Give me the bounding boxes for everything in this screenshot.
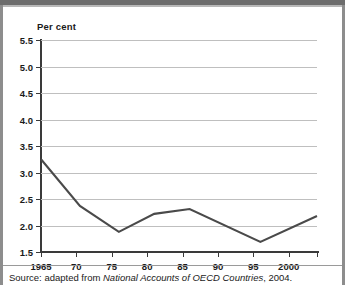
x-axis-tick-label: 1965 xyxy=(30,261,51,272)
y-axis-tick-label: 4.5 xyxy=(20,88,33,99)
y-axis-label: Per cent xyxy=(37,21,76,32)
x-axis-tick-label: 90 xyxy=(213,261,224,272)
x-axis-tick xyxy=(183,252,184,257)
y-axis-tick-label: 5.0 xyxy=(20,61,33,72)
y-axis-tick-label: 2.0 xyxy=(20,220,33,231)
x-axis-tick xyxy=(317,252,318,257)
line-chart: Per cent 5.55.04.54.03.53.02.52.01.5 196… xyxy=(3,7,342,265)
x-axis-tick xyxy=(218,252,219,257)
data-series-svg xyxy=(41,40,317,252)
source-separator xyxy=(3,265,342,266)
x-axis-tick-label: 75 xyxy=(106,261,117,272)
figure-panel: Per cent 5.55.04.54.03.53.02.52.01.5 196… xyxy=(3,7,342,285)
x-axis-tick-label: 95 xyxy=(248,261,259,272)
chart-figure: Per cent 5.55.04.54.03.53.02.52.01.5 196… xyxy=(0,0,345,285)
y-axis-tick-label: 2.5 xyxy=(20,194,33,205)
y-axis-tick-label: 5.5 xyxy=(20,35,33,46)
x-axis-tick xyxy=(41,252,42,257)
y-axis-tick-label: 1.5 xyxy=(20,247,33,258)
x-axis-tick-label: 2000 xyxy=(278,261,299,272)
x-axis-tick-label: 70 xyxy=(71,261,82,272)
x-axis-tick-label: 85 xyxy=(177,261,188,272)
series-line-per-cent xyxy=(41,159,317,242)
plot-area: 5.55.04.54.03.53.02.52.01.5 196570758085… xyxy=(41,40,317,252)
x-axis-tick xyxy=(112,252,113,257)
x-axis-tick xyxy=(289,252,290,257)
y-axis-tick-label: 3.5 xyxy=(20,141,33,152)
source-note: Source: adapted from National Accounts o… xyxy=(9,272,292,283)
source-suffix: , 2004. xyxy=(263,272,292,283)
source-title: National Accounts of OECD Countries xyxy=(103,272,263,283)
y-axis-tick-label: 3.0 xyxy=(20,167,33,178)
source-prefix: Source: adapted from xyxy=(9,272,103,283)
y-axis-tick-label: 4.0 xyxy=(20,114,33,125)
x-axis-tick xyxy=(76,252,77,257)
x-axis-tick-label: 80 xyxy=(142,261,153,272)
x-axis-tick xyxy=(147,252,148,257)
x-axis-tick xyxy=(253,252,254,257)
